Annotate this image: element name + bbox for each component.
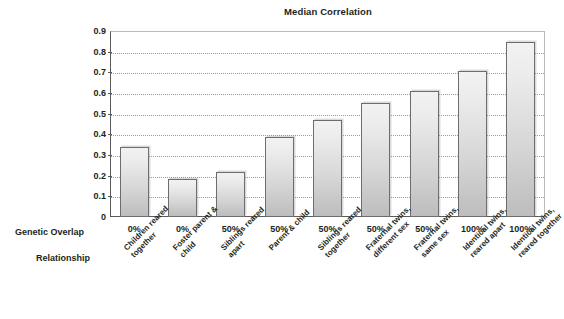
bar: [506, 42, 535, 217]
genetic-overlap-row-header: Genetic Overlap: [15, 227, 84, 237]
y-axis-tick-label: 0.3: [78, 150, 106, 160]
bar: [168, 179, 197, 217]
y-axis-tick-label: 0: [78, 212, 106, 222]
bar: [458, 71, 487, 217]
bar-series: [110, 31, 545, 217]
y-axis-tick-mark: [108, 176, 112, 177]
y-axis-tick-label: 0.5: [78, 109, 106, 119]
y-axis-tick-label: 0.7: [78, 67, 106, 77]
bar: [313, 120, 342, 217]
y-axis-tick-mark: [108, 52, 112, 53]
y-axis-tick-label: 0.6: [78, 88, 106, 98]
bar: [410, 91, 439, 217]
y-axis-tick-label: 0.9: [78, 26, 106, 36]
y-axis-tick-mark: [108, 93, 112, 94]
y-axis-tick-mark: [108, 155, 112, 156]
chart-title: Median Correlation: [110, 6, 546, 17]
y-axis-tick-label: 0.2: [78, 171, 106, 181]
bar: [361, 103, 390, 217]
bar: [216, 172, 245, 217]
bar: [265, 137, 294, 217]
y-axis-tick-mark: [108, 134, 112, 135]
y-axis-tick-label: 0.1: [78, 191, 106, 201]
y-axis-tick-label: 0.4: [78, 129, 106, 139]
y-axis-tick-mark: [108, 196, 112, 197]
y-axis-tick-mark: [108, 114, 112, 115]
y-axis-tick-label: 0.8: [78, 47, 106, 57]
y-axis-tick-mark: [108, 72, 112, 73]
y-axis: 0.90.80.70.60.50.40.30.20.10: [78, 31, 106, 217]
relationship-category-labels: Children rearedtogetherFoster parent &ch…: [110, 246, 561, 319]
relationship-row-header: Relationship: [36, 253, 90, 263]
bar: [120, 147, 149, 217]
